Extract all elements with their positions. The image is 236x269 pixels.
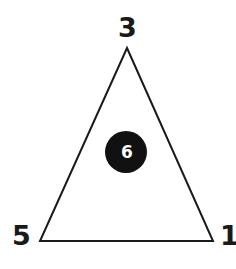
vertex-label-top: 3 (118, 14, 136, 41)
vertex-label-bottom-right: 1 (220, 222, 236, 249)
figure-canvas: 3 5 1 6 (0, 0, 236, 269)
vertex-label-bottom-left: 5 (12, 222, 30, 249)
center-node-label: 6 (121, 144, 133, 161)
